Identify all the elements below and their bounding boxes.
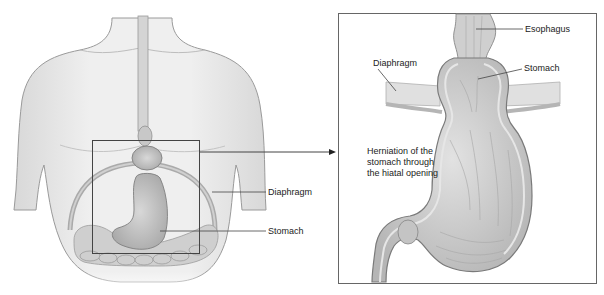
illustration-canvas [0,0,604,295]
label-herniation-line3: the hiatal opening [367,168,438,178]
zoom-arrow-head [329,149,336,155]
label-herniation-line1: Herniation of the [367,146,433,156]
pylorus [398,220,418,244]
label-stomach-left: Stomach [268,226,304,236]
label-herniation-line2: stomach through [367,157,434,167]
label-diaphragm-left: Diaphragm [268,187,312,197]
label-diaphragm-right: Diaphragm [373,58,417,68]
herniated-stomach-left [132,146,162,170]
label-esophagus: Esophagus [525,24,570,34]
label-stomach-right: Stomach [524,63,560,73]
